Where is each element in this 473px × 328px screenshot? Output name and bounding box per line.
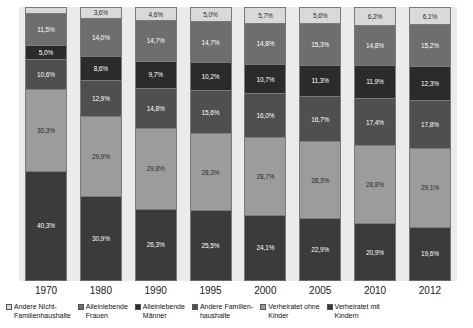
segment-value-label: 28,7% <box>256 173 274 180</box>
segment-value-label: 5,7% <box>258 12 272 19</box>
segment-value-label: 9,7% <box>148 71 162 78</box>
x-tick-label: 2010 <box>354 281 396 301</box>
segment-value-label: 10,2% <box>202 73 220 80</box>
segment-value-label: 15,6% <box>202 109 220 116</box>
bar-segment: 4,6% <box>135 7 177 20</box>
x-tick-label: 1990 <box>135 281 177 301</box>
bar-segment: 14,7% <box>190 21 232 62</box>
bar-column: 4,6%14,7%9,7%14,8%29,8%26,3% <box>135 7 177 281</box>
bar-column: 5,6%15,3%11,3%16,7%28,3%22,9% <box>299 7 341 281</box>
legend-label: Alleinlebende Männer <box>143 303 185 320</box>
segment-value-label: 8,6% <box>94 65 108 72</box>
bar-segment: 16,7% <box>299 96 341 142</box>
x-tick-label: 2005 <box>299 281 341 301</box>
bar-column: 5,0%14,7%10,2%15,6%28,3%25,5% <box>190 7 232 281</box>
segment-value-label: 14,8% <box>256 40 274 47</box>
bar-segment: 11,5% <box>25 13 67 45</box>
legend-swatch-icon <box>327 304 333 310</box>
bar-segment: 40,3% <box>25 171 67 281</box>
segment-value-label: 12,3% <box>421 80 439 87</box>
bar-segment: 28,3% <box>190 133 232 210</box>
bar-segment: 14,8% <box>354 25 396 66</box>
bar-segment: 10,6% <box>25 59 67 88</box>
legend-label: Verheiratet ohne Kinder <box>268 303 319 320</box>
bar-segment: 28,8% <box>354 145 396 223</box>
bar-segment: 14,8% <box>244 23 286 64</box>
legend-swatch-icon <box>192 304 198 310</box>
segment-value-label: 24,1% <box>256 244 274 251</box>
bar-segment: 15,6% <box>190 90 232 133</box>
bar-segment: 30,9% <box>80 196 122 281</box>
bar-segment: 11,3% <box>299 65 341 96</box>
bar-column: 6,1%15,2%12,3%17,8%29,1%19,6% <box>409 7 451 281</box>
legend-label: Andere Nicht- Familienhaushalte <box>14 303 71 320</box>
segment-value-label: 29,9% <box>92 153 110 160</box>
x-tick-label: 1995 <box>190 281 232 301</box>
legend-label: Andere Familien- haushalte <box>200 303 253 320</box>
bar-segment: 10,2% <box>190 62 232 90</box>
segment-value-label: 11,9% <box>366 78 383 85</box>
bar-column: 5,7%14,8%10,7%16,0%28,7%24,1% <box>244 7 286 281</box>
legend-item[interactable]: Verheiratet ohne Kinder <box>260 303 319 320</box>
legend-swatch-icon <box>78 304 84 310</box>
bar-segment: 15,2% <box>409 24 451 66</box>
segment-value-label: 22,9% <box>311 246 329 253</box>
bar-segment: 28,7% <box>244 137 286 215</box>
bar-segment: 30,3% <box>25 89 67 171</box>
x-axis-tick-labels: 19701980199019952000200520102012 <box>19 281 457 301</box>
bar-segment: 5,0% <box>25 45 67 59</box>
segment-value-label: 15,2% <box>421 42 439 49</box>
segment-value-label: 29,8% <box>147 165 165 172</box>
bar-segment: 15,3% <box>299 23 341 65</box>
segment-value-label: 3,6% <box>94 9 108 16</box>
bar-segment: 26,3% <box>135 209 177 281</box>
bar-segment: 11,9% <box>354 65 396 98</box>
bar-segment: 9,7% <box>135 61 177 88</box>
segment-value-label: 28,3% <box>311 177 329 184</box>
legend-label: Alleinlebende Frauen <box>86 303 128 320</box>
segment-value-label: 11,3% <box>311 77 328 84</box>
segment-value-label: 28,8% <box>366 181 384 188</box>
segment-value-label: 4,6% <box>148 11 162 18</box>
segment-value-label: 17,4% <box>366 119 384 126</box>
bar-segment: 5,7% <box>244 7 286 23</box>
segment-value-label: 30,9% <box>92 235 110 242</box>
segment-value-label: 16,0% <box>256 112 274 119</box>
segment-value-label: 20,9% <box>366 249 384 256</box>
segment-value-label: 14,7% <box>202 39 220 46</box>
bar-segment: 3,6% <box>80 7 122 18</box>
segment-value-label: 11,5% <box>37 26 54 33</box>
segment-value-label: 6,2% <box>368 13 382 20</box>
legend-swatch-icon <box>135 304 141 310</box>
segment-value-label: 16,7% <box>311 116 329 123</box>
bar-segment: 28,3% <box>299 141 341 217</box>
legend-item[interactable]: Alleinlebende Frauen <box>78 303 128 320</box>
bar-segment: 5,6% <box>299 7 341 23</box>
bars-container: 11,5%5,0%10,6%30,3%40,3%3,6%14,0%8,6%12,… <box>19 7 457 281</box>
bar-segment: 19,6% <box>409 227 451 281</box>
segment-value-label: 6,1% <box>423 13 437 20</box>
legend-item[interactable]: Andere Familien- haushalte <box>192 303 253 320</box>
bar-segment: 24,1% <box>244 215 286 281</box>
segment-value-label: 26,3% <box>147 241 165 248</box>
segment-value-label: 5,0% <box>39 49 53 56</box>
stacked-bar-chart: 11,5%5,0%10,6%30,3%40,3%3,6%14,0%8,6%12,… <box>0 0 473 328</box>
bar-segment: 14,7% <box>135 20 177 60</box>
legend-item[interactable]: Verheiratet mit Kindern <box>327 303 380 320</box>
bar-segment: 29,9% <box>80 116 122 197</box>
segment-value-label: 5,0% <box>203 11 217 18</box>
segment-value-label: 14,8% <box>366 42 384 49</box>
bar-segment: 5,0% <box>190 7 232 21</box>
bar-column: 3,6%14,0%8,6%12,9%29,9%30,9% <box>80 7 122 281</box>
bar-segment: 20,9% <box>354 223 396 281</box>
bar-column: 6,2%14,8%11,9%17,4%28,8%20,9% <box>354 7 396 281</box>
segment-value-label: 17,8% <box>421 121 439 128</box>
segment-value-label: 14,7% <box>147 37 165 44</box>
bar-segment: 22,9% <box>299 218 341 281</box>
bar-segment: 17,4% <box>354 98 396 145</box>
bar-segment: 10,7% <box>244 64 286 94</box>
bar-segment: 25,5% <box>190 210 232 281</box>
legend-item[interactable]: Alleinlebende Männer <box>135 303 185 320</box>
segment-value-label: 28,3% <box>202 169 220 176</box>
legend-item[interactable]: Andere Nicht- Familienhaushalte <box>6 303 71 320</box>
